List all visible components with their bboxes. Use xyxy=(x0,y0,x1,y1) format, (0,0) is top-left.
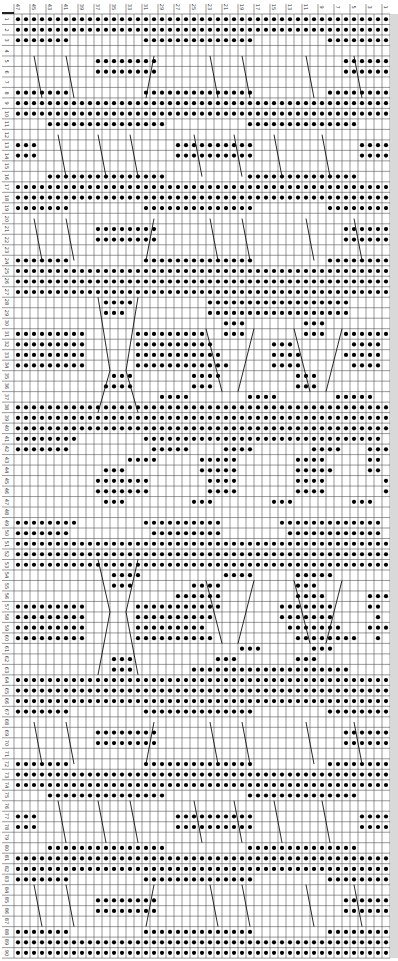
knitting-chart: 4745434139373533312927252321191715131197… xyxy=(0,0,398,961)
stitch-grid xyxy=(0,0,398,961)
